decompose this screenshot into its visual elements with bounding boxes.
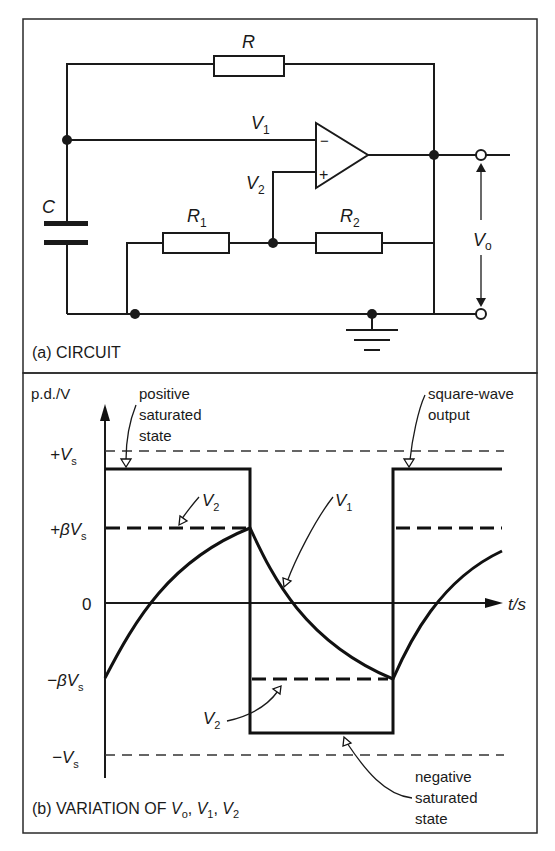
node-bottom-left bbox=[130, 309, 140, 319]
label-R2: R2 bbox=[340, 206, 360, 230]
output-terminal-top bbox=[476, 150, 486, 160]
ground-icon bbox=[346, 314, 398, 350]
svg-text:V1: V1 bbox=[335, 491, 352, 513]
annotation-v2-bottom: V2 bbox=[203, 686, 281, 731]
wire-top-left bbox=[67, 64, 214, 140]
resistor-R1 bbox=[163, 233, 229, 253]
label-V2: V2 bbox=[246, 173, 265, 197]
series-vo-square-wave bbox=[105, 469, 502, 733]
svg-text:output: output bbox=[428, 406, 471, 423]
annotation-negative-saturated: negative saturated state bbox=[343, 737, 478, 827]
tick-zero: 0 bbox=[82, 595, 91, 614]
wire-v2 bbox=[273, 172, 316, 243]
tick-minus-beta-vs: −βVs bbox=[47, 671, 84, 693]
x-axis-label: t/s bbox=[508, 595, 526, 614]
y-axis-arrow-icon bbox=[100, 404, 110, 421]
graph-caption: (b) VARIATION OF Vo, V1, V2 bbox=[32, 800, 239, 820]
figure: R V1 − + V2 R1 R2 C Vo (a) CIRCUI bbox=[0, 0, 555, 851]
svg-text:negative: negative bbox=[415, 768, 472, 785]
op-amp-plus: + bbox=[319, 166, 328, 183]
svg-text:state: state bbox=[139, 427, 172, 444]
tick-plus-vs: +Vs bbox=[50, 445, 77, 467]
y-axis-label: p.d./V bbox=[31, 385, 70, 402]
label-C: C bbox=[42, 197, 56, 217]
svg-text:V2: V2 bbox=[202, 491, 219, 513]
capacitor-plate-top bbox=[44, 221, 88, 226]
annotation-positive-saturated: positive saturated state bbox=[121, 385, 202, 467]
output-terminal-bottom bbox=[476, 309, 486, 319]
x-axis-arrow-icon bbox=[485, 598, 503, 608]
tick-minus-vs: −Vs bbox=[52, 748, 79, 770]
wire-r1-left bbox=[127, 243, 163, 314]
svg-text:V2: V2 bbox=[203, 709, 220, 731]
resistor-R2 bbox=[316, 233, 382, 253]
svg-text:positive: positive bbox=[139, 385, 190, 402]
label-Vo: Vo bbox=[473, 230, 492, 253]
label-R1: R1 bbox=[187, 206, 207, 230]
svg-text:state: state bbox=[415, 810, 448, 827]
annotation-square-wave: square-wave output bbox=[404, 385, 514, 467]
node-v2 bbox=[268, 238, 278, 248]
resistor-R bbox=[214, 56, 284, 76]
op-amp-minus: − bbox=[320, 132, 329, 149]
wire-top-right bbox=[284, 64, 434, 314]
svg-text:square-wave: square-wave bbox=[428, 385, 514, 402]
node-output bbox=[429, 150, 439, 160]
circuit-caption: (a) CIRCUIT bbox=[32, 344, 121, 361]
label-V1: V1 bbox=[251, 113, 270, 137]
svg-text:saturated: saturated bbox=[415, 789, 478, 806]
svg-text:saturated: saturated bbox=[139, 406, 202, 423]
annotation-v2-top: V2 bbox=[179, 491, 219, 525]
tick-plus-beta-vs: +βVs bbox=[50, 520, 87, 542]
annotation-v1: V1 bbox=[283, 491, 352, 587]
label-R: R bbox=[242, 32, 255, 52]
